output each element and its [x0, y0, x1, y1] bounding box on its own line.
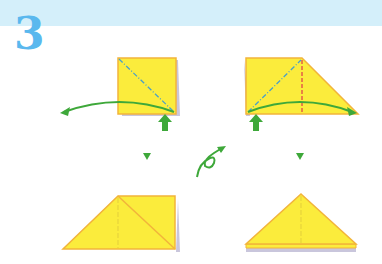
step-b-trapezoid [244, 58, 358, 131]
step-d-result [246, 194, 356, 252]
step-c-result [63, 196, 180, 252]
origami-diagram [0, 0, 382, 264]
flip-over-icon [197, 146, 226, 177]
down-triangle-icon [296, 153, 304, 160]
arrowhead-icon [60, 107, 70, 116]
step-a-square [60, 58, 180, 131]
push-up-arrow-icon [158, 114, 172, 131]
down-triangle-icon [143, 153, 151, 160]
push-up-arrow-icon [249, 114, 263, 131]
